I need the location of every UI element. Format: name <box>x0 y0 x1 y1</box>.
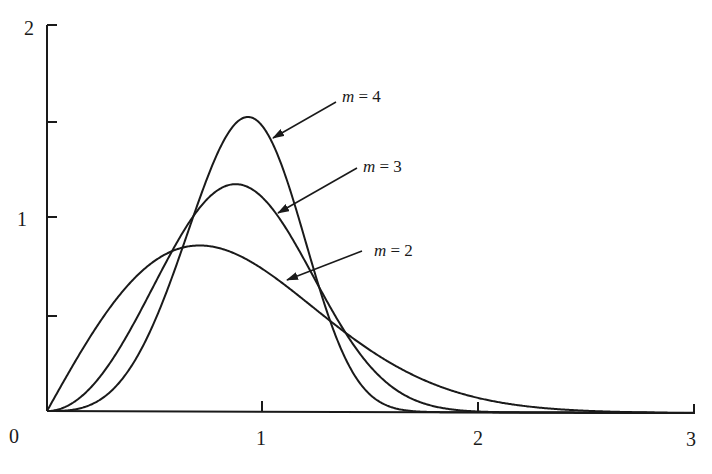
x-tick-label-1: 1 <box>256 427 266 449</box>
arrow-m4 <box>273 102 336 138</box>
weibull-density-chart: 0 1 2 3 1 2 m = 4 m = 3 m = 2 <box>0 0 712 474</box>
x-tick-label-3: 3 <box>686 428 696 450</box>
annotation-m3: m = 3 <box>278 157 402 213</box>
y-tick-label-1: 1 <box>17 208 27 230</box>
label-m3: m = 3 <box>363 157 402 176</box>
arrow-m2 <box>287 251 362 280</box>
curve-m3 <box>47 184 695 413</box>
x-tick-label-2: 2 <box>473 427 483 449</box>
annotation-m2: m = 2 <box>287 241 413 280</box>
annotation-m4: m = 4 <box>273 87 381 138</box>
axes <box>47 25 694 413</box>
x-tick-label-0: 0 <box>9 425 19 447</box>
y-tick-label-2: 2 <box>24 17 34 39</box>
label-m4: m = 4 <box>342 87 381 106</box>
label-m2: m = 2 <box>374 241 413 260</box>
curve-m2 <box>47 245 695 412</box>
